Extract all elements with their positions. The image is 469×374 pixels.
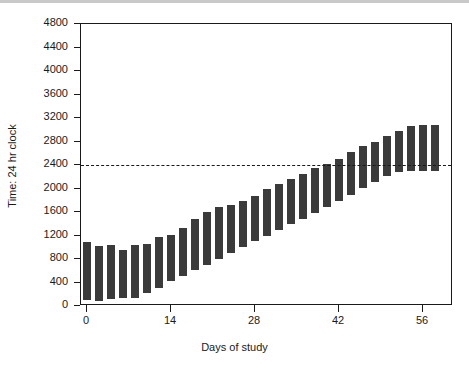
bar [119, 250, 126, 298]
bar [263, 189, 270, 236]
bar [371, 142, 378, 183]
x-axis-title: Days of study [0, 341, 469, 353]
bar [383, 136, 390, 176]
bar [239, 201, 246, 247]
bar [131, 245, 138, 298]
bar [311, 168, 318, 213]
bar [167, 235, 174, 281]
x-axis-tick-label: 42 [332, 314, 344, 326]
bar [203, 212, 210, 265]
plot-area [80, 23, 452, 305]
bar [95, 246, 102, 301]
reference-line-2400 [81, 165, 451, 166]
bar [191, 219, 198, 270]
x-axis-tick-label: 0 [83, 314, 89, 326]
bar [275, 184, 282, 231]
x-axis-tick [86, 305, 87, 312]
figure-canvas: 0400800120016002000240028003200360040004… [0, 0, 469, 374]
x-axis-tick-label: 14 [164, 314, 176, 326]
bar [107, 245, 114, 299]
y-axis-title: Time: 24 hr clock [6, 91, 18, 241]
bar [83, 242, 90, 300]
bar [359, 146, 366, 188]
bar [347, 152, 354, 195]
x-axis-tick-label: 56 [416, 314, 428, 326]
bar [251, 196, 258, 242]
bar [287, 179, 294, 224]
bar [323, 164, 330, 207]
x-axis-tick [338, 305, 339, 312]
y-axis-tick [74, 305, 80, 306]
bar [179, 228, 186, 275]
bar [215, 207, 222, 259]
bar [299, 174, 306, 219]
x-axis-tick [422, 305, 423, 312]
bar [143, 244, 150, 294]
x-axis-tick-label: 28 [248, 314, 260, 326]
x-axis-tick [254, 305, 255, 312]
bar [155, 237, 162, 288]
x-axis-tick [170, 305, 171, 312]
bar [431, 125, 438, 171]
bar [227, 205, 234, 252]
